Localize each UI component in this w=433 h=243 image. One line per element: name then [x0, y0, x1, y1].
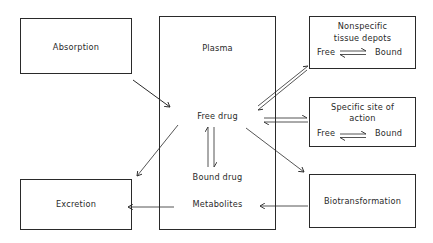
- biotransformation-label: Biotransformation: [310, 196, 415, 206]
- specific-site-box: Specific site of action Free Bound: [309, 97, 416, 147]
- nonspecific-line2: tissue depots: [310, 33, 415, 43]
- biotransformation-box: Biotransformation: [309, 174, 416, 228]
- absorption-box: Absorption: [20, 18, 132, 74]
- nonspecific-line1: Nonspecific: [310, 21, 415, 31]
- nonspecific-bound-label: Bound: [375, 47, 402, 57]
- excretion-label: Excretion: [21, 199, 131, 209]
- specific-line2: action: [310, 113, 415, 123]
- specific-free-label: Free: [317, 128, 335, 138]
- bound-drug-label: Bound drug: [160, 172, 275, 182]
- specific-line1: Specific site of: [310, 102, 415, 112]
- plasma-box: Plasma Free drug Bound drug Metabolites: [159, 16, 276, 230]
- nonspecific-free-label: Free: [317, 47, 335, 57]
- metabolites-label: Metabolites: [160, 199, 275, 209]
- free-drug-label: Free drug: [160, 111, 275, 121]
- absorption-label: Absorption: [21, 42, 131, 52]
- specific-bound-label: Bound: [375, 128, 402, 138]
- plasma-title: Plasma: [160, 43, 275, 53]
- excretion-box: Excretion: [20, 179, 132, 230]
- nonspecific-tissue-box: Nonspecific tissue depots Free Bound: [309, 16, 416, 69]
